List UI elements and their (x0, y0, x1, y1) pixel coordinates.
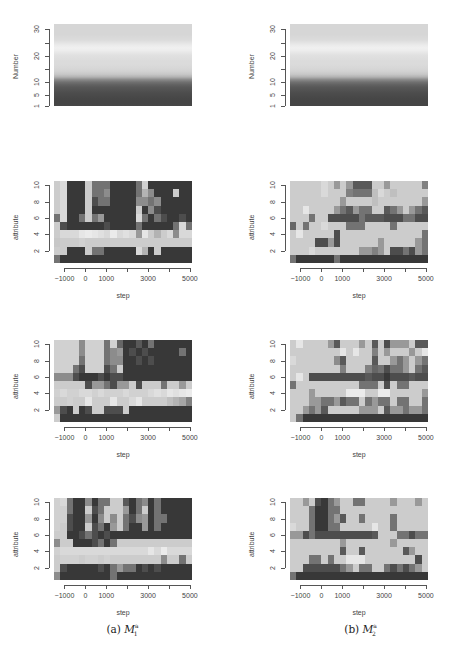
x-tick-label: 5000 (411, 592, 441, 599)
heatmap-cell (186, 397, 192, 405)
y-tick (45, 69, 49, 70)
caption-a-label: (a) (107, 623, 121, 635)
y-tick-label: 10 (269, 75, 277, 89)
y-tick (281, 502, 285, 503)
heatmap-cell (186, 572, 192, 580)
x-tick (405, 268, 406, 272)
heatmap-cell (186, 222, 192, 230)
x-tick (426, 585, 427, 589)
y-tick-label: 10 (269, 337, 277, 351)
x-tick (85, 268, 86, 272)
y-tick-label: 6 (33, 528, 41, 542)
heatmap-cell (422, 498, 428, 506)
y-tick (45, 344, 49, 345)
heatmap-cell (422, 214, 428, 222)
y-tick (281, 568, 285, 569)
heatmap-cell (422, 547, 428, 555)
y-tick-label: 5 (269, 88, 277, 102)
y-tick-label: 6 (269, 370, 277, 384)
x-tick (405, 585, 406, 589)
x-tick (384, 427, 385, 431)
y-tick (45, 551, 49, 552)
y-tick (45, 393, 49, 394)
x-tick-label: 5000 (411, 434, 441, 441)
x-tick (190, 427, 191, 431)
x-axis-label: step (329, 451, 389, 458)
x-tick (169, 585, 170, 589)
heatmap-cell (186, 206, 192, 214)
heatmap-cell (422, 506, 428, 514)
y-tick (281, 202, 285, 203)
x-tick (321, 427, 322, 431)
x-tick (106, 427, 107, 431)
y-tick-label: 4 (269, 386, 277, 400)
y-tick (281, 95, 285, 96)
y-tick-label: 8 (33, 512, 41, 526)
y-tick (45, 410, 49, 411)
x-tick-label: 5000 (411, 275, 441, 282)
y-tick (281, 218, 285, 219)
x-tick-label: 1000 (327, 592, 357, 599)
x-tick-label: 1000 (327, 275, 357, 282)
caption-b: (b) Ma2 (300, 622, 420, 637)
heatmap-cell (186, 381, 192, 389)
number-heatmap (290, 24, 428, 106)
x-tick (148, 427, 149, 431)
y-tick (281, 185, 285, 186)
heatmap-cell (186, 255, 192, 263)
y-tick (45, 43, 49, 44)
y-tick-label: 4 (33, 386, 41, 400)
heatmap-cell (422, 514, 428, 522)
y-tick-label: 8 (33, 354, 41, 368)
heatmap-cell (186, 531, 192, 539)
x-axis-label: step (329, 292, 389, 299)
x-tick-label: 3000 (133, 592, 163, 599)
heatmap-cell (186, 373, 192, 381)
y-tick (281, 551, 285, 552)
y-tick-label: 6 (33, 370, 41, 384)
y-axis-line (49, 502, 50, 568)
heatmap-cell (186, 547, 192, 555)
attribute-heatmap (54, 498, 192, 580)
heatmap-cell (422, 406, 428, 414)
number-heatmap (54, 24, 192, 106)
x-tick (148, 585, 149, 589)
heatmap-cell (422, 356, 428, 364)
y-tick (45, 82, 49, 83)
y-tick-label: 30 (269, 22, 277, 36)
x-tick (363, 268, 364, 272)
x-tick (169, 268, 170, 272)
x-tick (405, 427, 406, 431)
caption-b-label: (b) (344, 623, 359, 635)
x-tick (85, 427, 86, 431)
y-tick-label: 10 (33, 178, 41, 192)
y-axis-line (49, 29, 50, 106)
heatmap-cell (422, 206, 428, 214)
heatmap-cell (186, 214, 192, 222)
y-tick-label: 6 (269, 211, 277, 225)
y-tick (45, 535, 49, 536)
y-tick-label: 8 (269, 195, 277, 209)
y-tick (45, 361, 49, 362)
y-tick (45, 106, 49, 107)
x-tick (426, 427, 427, 431)
y-tick-label: 10 (33, 75, 41, 89)
y-tick (281, 106, 285, 107)
x-tick (106, 585, 107, 589)
y-tick (45, 568, 49, 569)
y-axis-label: attribute (248, 215, 255, 240)
caption-b-sup: a (373, 622, 377, 629)
y-axis-line (285, 29, 286, 106)
x-tick-label: 3000 (369, 592, 399, 599)
x-tick (64, 427, 65, 431)
x-tick (384, 585, 385, 589)
y-axis-line (285, 502, 286, 568)
x-tick-label: 3000 (369, 434, 399, 441)
heatmap-cell (422, 381, 428, 389)
heatmap-cell (186, 498, 192, 506)
y-tick-label: 8 (33, 195, 41, 209)
y-tick (45, 377, 49, 378)
heatmap-cell (186, 539, 192, 547)
x-axis-label: step (93, 451, 153, 458)
y-tick-label: 10 (33, 495, 41, 509)
